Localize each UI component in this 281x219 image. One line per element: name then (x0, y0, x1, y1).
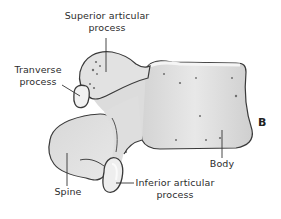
label-body: Body (207, 158, 237, 170)
panel-letter: B (258, 116, 266, 129)
label-superior-articular-line2: process (62, 22, 152, 34)
label-inferior-articular-process: Inferior articular process (130, 177, 220, 201)
label-inferior-articular-line1: Inferior articular (130, 177, 220, 189)
label-superior-articular-process: Superior articular process (62, 10, 152, 34)
label-spine: Spine (50, 186, 86, 198)
label-transverse-process: Tranverse process (12, 64, 64, 88)
vertebral-body (137, 61, 252, 149)
label-superior-articular-line1: Superior articular (62, 10, 152, 22)
label-transverse-line1: Tranverse (12, 64, 64, 76)
label-inferior-articular-line2: process (130, 189, 220, 201)
inferior-articular-process-shape (103, 158, 123, 193)
label-transverse-line2: process (12, 76, 64, 88)
vertebra-lateral-view-figure: Superior articular process Tranverse pro… (0, 0, 281, 219)
transverse-process-shape (74, 85, 90, 107)
